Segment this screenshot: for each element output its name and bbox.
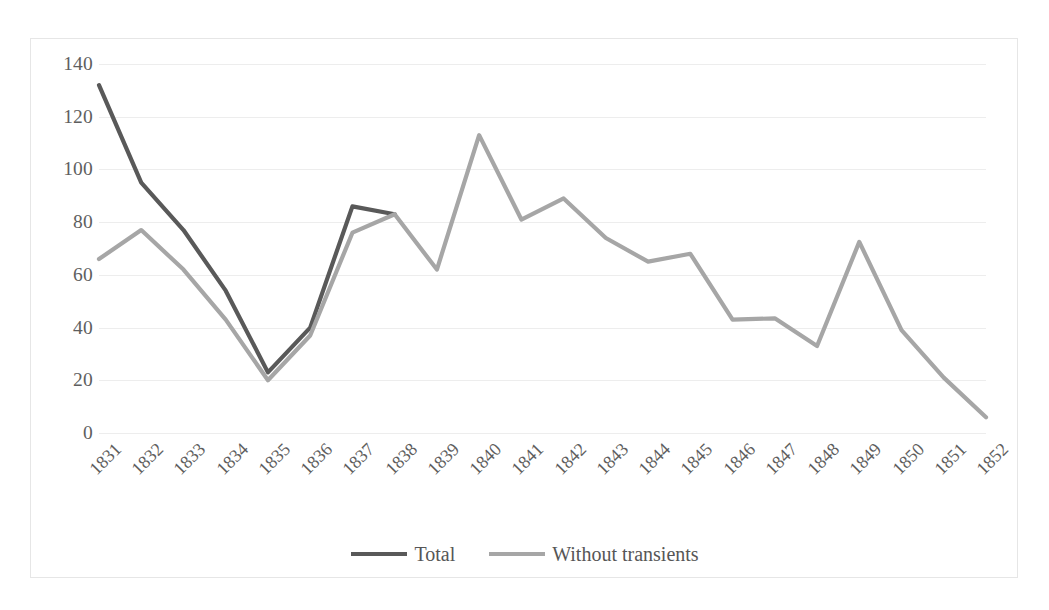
y-axis-tick-label: 140 xyxy=(35,54,93,74)
y-axis-tick-label: 100 xyxy=(35,160,93,180)
chart-container: 020406080100120140 183118321833183418351… xyxy=(30,38,1018,578)
y-axis-tick-label: 120 xyxy=(35,107,93,127)
legend-swatch-icon xyxy=(489,552,545,556)
y-axis: 020406080100120140 xyxy=(31,64,93,433)
y-axis-tick-label: 0 xyxy=(35,423,93,443)
x-axis: 1831183218331834183518361837183818391840… xyxy=(99,439,986,539)
legend-item[interactable]: Total xyxy=(351,544,455,564)
y-axis-tick-label: 60 xyxy=(35,265,93,285)
y-axis-tick-label: 40 xyxy=(35,318,93,338)
y-axis-tick-label: 80 xyxy=(35,212,93,232)
plot-area xyxy=(99,64,986,433)
legend-swatch-icon xyxy=(351,552,407,556)
chart-legend: TotalWithout transients xyxy=(31,544,1019,564)
series-lines xyxy=(99,64,986,433)
legend-item[interactable]: Without transients xyxy=(489,544,698,564)
legend-label: Total xyxy=(414,544,455,564)
series-line xyxy=(99,85,395,372)
gridline xyxy=(99,433,986,434)
legend-label: Without transients xyxy=(552,544,698,564)
series-line xyxy=(99,135,986,417)
y-axis-tick-label: 20 xyxy=(35,371,93,391)
